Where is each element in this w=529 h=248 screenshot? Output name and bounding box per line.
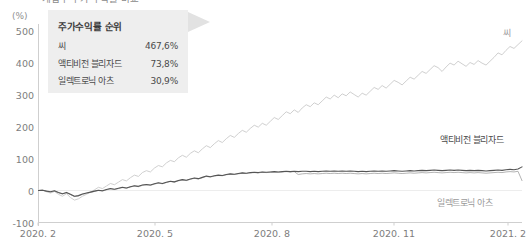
y-tick-label: 200 [2,121,34,132]
y-tick-label: -100 [2,217,34,228]
series-label-sea: 씨 [503,26,511,39]
legend-box: 주가수익률 순위 씨 467,6% 액티비전 블리자드 73,8% 일렉트로닉 … [48,10,188,93]
legend-item-value: 73,8% [150,59,178,69]
legend-item-name: 씨 [58,39,66,52]
y-tick-label: 300 [2,89,34,100]
legend-row: 일렉트로닉 아츠 30,9% [58,74,178,87]
x-tick-label: 2020. 2 [20,228,56,239]
legend-item-value: 467,6% [145,41,178,51]
legend-row: 액티비전 블리자드 73,8% [58,57,178,70]
series-label-activision-blizzard: 액티비전 블리자드 [440,133,503,146]
legend-row: 씨 467,6% [58,39,178,52]
x-tick-label: 2021. 2 [490,228,526,239]
y-tick-label: 0 [2,185,34,196]
series-line-activision-blizzard [39,167,523,196]
series-label-electronic-arts: 일렉트로닉 아츠 [437,196,493,209]
legend-item-name: 액티비전 블리자드 [58,57,121,70]
stock-return-chart: 게임주 주가 수익률 비교 (%) 5004003002001000-100 2… [0,0,529,248]
x-tick-label: 2020. 5 [137,228,173,239]
y-tick-label: 100 [2,153,34,164]
legend-item-value: 30,9% [150,76,178,86]
x-tick-label: 2020. 11 [373,228,415,239]
y-tick-label: 500 [2,25,34,36]
legend-title: 주가수익률 순위 [58,19,178,33]
legend-item-name: 일렉트로닉 아츠 [58,74,114,87]
y-tick-label: 400 [2,57,34,68]
legend-callout-tail [188,12,210,32]
x-tick-label: 2020. 8 [254,228,290,239]
